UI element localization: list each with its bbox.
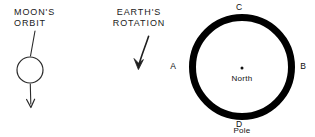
moon-label-leader-line — [31, 31, 36, 56]
moon-orbit-earth-rotation-diagram: MOON'S ORBIT EARTH'S ROTATION North Pole… — [0, 0, 315, 137]
north-pole-dot-spacer — [212, 103, 272, 107]
point-label-c: C — [234, 3, 244, 12]
point-label-a: A — [168, 62, 178, 71]
moon-motion-arrow — [27, 84, 35, 108]
point-label-b: B — [298, 62, 308, 71]
earth-rotation-arrow — [134, 36, 149, 69]
moon-orbit-label: MOON'S ORBIT — [14, 7, 76, 29]
earth-rotation-label: EARTH'S ROTATION — [104, 7, 174, 29]
moon-circle — [17, 57, 43, 83]
north-pole-label-line-1: North — [212, 74, 272, 84]
point-label-d: D — [234, 120, 244, 129]
